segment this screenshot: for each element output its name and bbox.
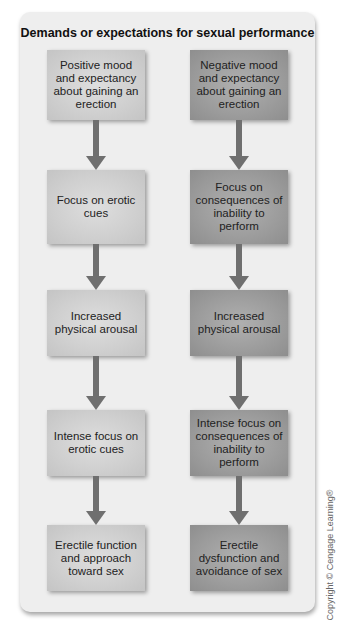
- right-box-5: Erectile dysfunction and avoidance of se…: [190, 525, 288, 591]
- left-box-2-label: Focus on erotic cues: [47, 194, 145, 220]
- diagram-title: Demands or expectations for sexual perfo…: [20, 26, 315, 40]
- down-arrow-icon: [229, 476, 249, 525]
- down-arrow-icon: [229, 120, 249, 170]
- left-box-1: Positive mood and expectancy about gaini…: [47, 50, 145, 120]
- down-arrow-icon: [86, 120, 106, 170]
- down-arrow-icon: [86, 476, 106, 525]
- right-box-1-label: Negative mood and expectancy about gaini…: [190, 59, 288, 111]
- right-box-5-label: Erectile dysfunction and avoidance of se…: [190, 539, 288, 578]
- left-box-4: Intense focus on erotic cues: [47, 410, 145, 476]
- down-arrow-icon: [86, 244, 106, 290]
- right-box-4: Intense focus on consequences of inabili…: [190, 410, 288, 476]
- down-arrow-icon: [229, 356, 249, 410]
- down-arrow-icon: [229, 244, 249, 290]
- left-box-5-label: Erectile function and approach toward se…: [47, 539, 145, 578]
- left-box-1-label: Positive mood and expectancy about gaini…: [47, 59, 145, 111]
- left-box-3-label: Increased physical arousal: [47, 310, 145, 336]
- right-box-1: Negative mood and expectancy about gaini…: [190, 50, 288, 120]
- left-box-2: Focus on erotic cues: [47, 170, 145, 244]
- right-box-4-label: Intense focus on consequences of inabili…: [190, 417, 288, 469]
- left-box-5: Erectile function and approach toward se…: [47, 525, 145, 591]
- left-box-4-label: Intense focus on erotic cues: [47, 430, 145, 456]
- right-box-3-label: Increased physical arousal: [190, 310, 288, 336]
- right-box-2-label: Focus on consequences of inability to pe…: [190, 181, 288, 233]
- copyright-notice: Copyright © Cengage Learning®: [325, 490, 335, 621]
- left-box-3: Increased physical arousal: [47, 290, 145, 356]
- diagram-panel: Demands or expectations for sexual perfo…: [20, 12, 315, 612]
- right-box-2: Focus on consequences of inability to pe…: [190, 170, 288, 244]
- right-box-3: Increased physical arousal: [190, 290, 288, 356]
- down-arrow-icon: [86, 356, 106, 410]
